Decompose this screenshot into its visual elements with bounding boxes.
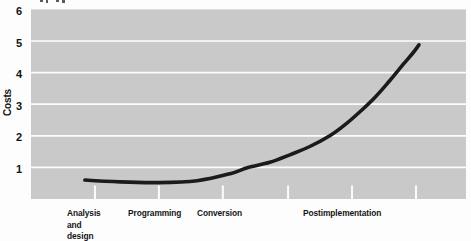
y-tick-label: 2	[0, 132, 22, 143]
cropped-letter-mark	[56, 0, 59, 2]
cost-curve-figure: Costs 654321 AnalysisanddesignProgrammin…	[0, 0, 471, 241]
x-axis-label-line: Analysis	[67, 207, 101, 219]
cropped-letter-mark	[62, 0, 65, 3]
y-tick-label: 3	[0, 101, 22, 112]
x-axis-label-line: and	[67, 219, 101, 231]
x-axis-label: Conversion	[197, 207, 242, 219]
y-tick-label: 4	[0, 69, 22, 80]
cropped-letter-mark	[40, 0, 43, 2]
y-tick-label: 5	[0, 38, 22, 49]
cropped-letter-mark	[46, 0, 48, 3]
x-axis-label: Postimplementation	[303, 207, 381, 219]
x-axis-label: Analysisanddesign	[67, 207, 101, 241]
x-axis-label-line: Postimplementation	[303, 207, 381, 219]
y-tick-label: 6	[0, 6, 22, 17]
x-axis-label: Programming	[128, 207, 181, 219]
x-axis-label-line: Conversion	[197, 207, 242, 219]
x-axis-label-line: Programming	[128, 207, 181, 219]
cost-curve-plot	[0, 0, 471, 241]
y-tick-label: 1	[0, 164, 22, 175]
x-axis-label-line: design	[67, 230, 101, 241]
